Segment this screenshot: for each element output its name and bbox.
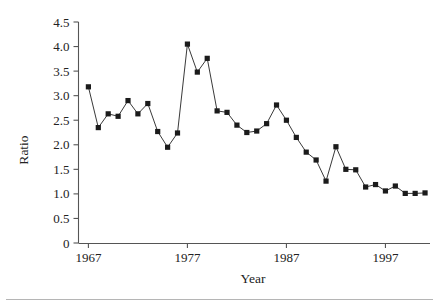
data-point-marker <box>185 42 190 47</box>
data-point-marker <box>116 114 121 119</box>
y-tick-label: 0 <box>63 236 70 251</box>
ratio-line-chart: 00.51.01.52.02.53.03.54.04.5 19671977198… <box>0 0 439 305</box>
ratio-series-markers <box>86 42 428 197</box>
data-point-marker <box>135 111 140 116</box>
data-point-marker <box>165 145 170 150</box>
y-tick-label: 3.5 <box>53 64 69 79</box>
chart-figure: 00.51.01.52.02.53.03.54.04.5 19671977198… <box>0 0 439 305</box>
data-point-marker <box>224 110 229 115</box>
data-point-marker <box>96 125 101 130</box>
data-point-marker <box>333 144 338 149</box>
x-axis-title: Year <box>241 271 266 286</box>
data-point-marker <box>106 111 111 116</box>
x-axis-ticks: 1967197719871997 <box>75 243 399 265</box>
y-tick-label: 3.0 <box>53 88 69 103</box>
data-point-marker <box>294 135 299 140</box>
data-point-marker <box>314 157 319 162</box>
data-point-marker <box>383 188 388 193</box>
data-point-marker <box>304 150 309 155</box>
y-tick-label: 2.0 <box>53 137 69 152</box>
y-tick-label: 1.0 <box>53 186 69 201</box>
data-point-marker <box>363 184 368 189</box>
data-point-marker <box>274 102 279 107</box>
data-point-marker <box>403 191 408 196</box>
data-point-marker <box>145 101 150 106</box>
x-tick-label: 1997 <box>372 250 399 265</box>
data-point-marker <box>205 56 210 61</box>
ratio-series-line <box>88 44 425 193</box>
data-point-marker <box>413 191 418 196</box>
data-point-marker <box>393 183 398 188</box>
y-tick-label: 4.5 <box>53 15 69 30</box>
data-point-marker <box>254 128 259 133</box>
x-tick-label: 1967 <box>75 250 102 265</box>
y-tick-label: 4.0 <box>53 39 69 54</box>
x-tick-label: 1977 <box>174 250 201 265</box>
data-point-marker <box>215 108 220 113</box>
data-point-marker <box>234 123 239 128</box>
data-point-marker <box>343 167 348 172</box>
y-tick-label: 1.5 <box>53 162 69 177</box>
data-point-marker <box>284 118 289 123</box>
x-tick-label: 1987 <box>273 250 300 265</box>
data-point-marker <box>353 167 358 172</box>
data-point-marker <box>86 84 91 89</box>
data-point-marker <box>155 129 160 134</box>
data-point-marker <box>323 179 328 184</box>
y-axis-ticks: 00.51.01.52.02.53.03.54.04.5 <box>53 15 78 251</box>
y-tick-label: 0.5 <box>53 211 69 226</box>
y-tick-label: 2.5 <box>53 113 69 128</box>
data-point-marker <box>373 182 378 187</box>
data-point-marker <box>125 98 130 103</box>
data-point-marker <box>264 121 269 126</box>
data-point-marker <box>422 190 427 195</box>
data-point-marker <box>244 130 249 135</box>
data-point-marker <box>195 69 200 74</box>
data-point-marker <box>175 130 180 135</box>
y-axis-title: Ratio <box>16 135 31 164</box>
